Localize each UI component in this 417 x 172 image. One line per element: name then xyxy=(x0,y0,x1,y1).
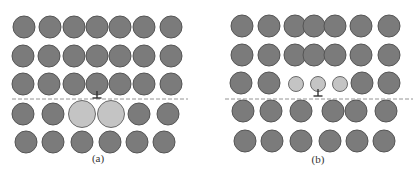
matrix-atom xyxy=(322,100,344,122)
matrix-atom xyxy=(378,72,400,94)
matrix-atom xyxy=(290,100,312,122)
matrix-atom xyxy=(15,131,37,153)
matrix-atom xyxy=(231,15,253,37)
matrix-atom xyxy=(128,103,150,125)
matrix-atom xyxy=(153,131,175,153)
matrix-atom xyxy=(160,45,182,67)
matrix-atom xyxy=(109,16,131,38)
matrix-atom xyxy=(86,16,108,38)
matrix-atom xyxy=(160,16,182,38)
matrix-atom xyxy=(303,15,325,37)
solute-atom-small xyxy=(333,77,348,92)
matrix-atom xyxy=(63,16,85,38)
matrix-atom xyxy=(12,73,34,95)
matrix-atom xyxy=(290,130,312,152)
matrix-atom xyxy=(71,131,93,153)
matrix-atom xyxy=(350,44,372,66)
matrix-atom xyxy=(99,131,121,153)
matrix-atom xyxy=(109,45,131,67)
panel-a xyxy=(12,16,188,153)
panel-b xyxy=(225,15,413,152)
matrix-atom xyxy=(109,73,131,95)
matrix-atom xyxy=(324,44,346,66)
matrix-atom xyxy=(126,131,148,153)
solute-atom-large xyxy=(69,101,96,128)
matrix-atom xyxy=(351,72,373,94)
matrix-atom xyxy=(234,130,256,152)
panel-label-a: (a) xyxy=(92,152,104,164)
matrix-atom xyxy=(157,103,179,125)
matrix-atom xyxy=(378,44,400,66)
matrix-atom xyxy=(42,103,64,125)
matrix-atom xyxy=(378,15,400,37)
matrix-atom xyxy=(39,16,61,38)
panel-label-b: (b) xyxy=(312,153,325,165)
matrix-atom xyxy=(133,45,155,67)
matrix-atom xyxy=(375,100,397,122)
solute-atom-large xyxy=(98,101,125,128)
matrix-atom xyxy=(258,72,280,94)
matrix-atom xyxy=(86,45,108,67)
matrix-atom xyxy=(261,130,283,152)
matrix-atom xyxy=(260,100,282,122)
matrix-atom xyxy=(63,73,85,95)
matrix-atom xyxy=(319,130,341,152)
matrix-atom xyxy=(232,100,254,122)
matrix-atom xyxy=(12,45,34,67)
matrix-atom xyxy=(346,130,368,152)
matrix-atom xyxy=(230,72,252,94)
matrix-atom xyxy=(373,130,395,152)
matrix-atom xyxy=(42,131,64,153)
matrix-atom xyxy=(13,16,35,38)
matrix-atom xyxy=(258,15,280,37)
matrix-atom xyxy=(258,44,280,66)
matrix-atom xyxy=(303,44,325,66)
matrix-atom xyxy=(231,44,253,66)
matrix-atom xyxy=(345,100,367,122)
matrix-atom xyxy=(38,73,60,95)
matrix-atom xyxy=(12,103,34,125)
matrix-atom xyxy=(133,16,155,38)
matrix-atom xyxy=(324,15,346,37)
matrix-atom xyxy=(160,73,182,95)
dislocation-solute-diagram xyxy=(0,0,417,172)
solute-atom-small xyxy=(289,77,304,92)
matrix-atom xyxy=(350,15,372,37)
matrix-atom xyxy=(133,73,155,95)
matrix-atom xyxy=(63,45,85,67)
matrix-atom xyxy=(38,45,60,67)
